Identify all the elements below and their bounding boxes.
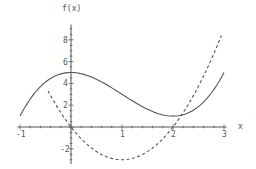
x-tick-label: 3: [222, 130, 227, 139]
y-tick-label: 4: [63, 79, 68, 88]
y-tick-label: 6: [63, 58, 68, 67]
y-axis-label: f(x): [62, 4, 81, 13]
x-tick-label: 1: [120, 130, 125, 139]
x-tick-label: 2: [171, 130, 176, 139]
function-plot: -1123-22468 f(x) x: [0, 0, 256, 169]
curves: [20, 35, 224, 159]
x-tick-label: -1: [16, 130, 26, 139]
function-curve: [20, 73, 224, 117]
x-axis-label: x: [238, 122, 243, 131]
derivative-curve: [48, 35, 221, 159]
y-tick-label: 2: [63, 101, 68, 110]
y-tick-label: 8: [63, 36, 68, 45]
y-tick-label: -2: [60, 145, 70, 154]
